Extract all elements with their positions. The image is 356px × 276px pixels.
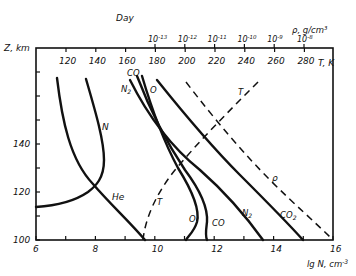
label-n2-bottom: N2: [242, 208, 252, 219]
t-tick-label: 120: [59, 56, 76, 66]
x-axis-title: lg N, cm-3: [307, 258, 348, 269]
label-n: N: [102, 122, 109, 132]
rho-tick-label: 10-10: [237, 34, 257, 44]
label-o-top: O: [150, 85, 157, 95]
x-tick-label: 6: [33, 244, 39, 254]
x-tick-label: 12: [211, 244, 223, 254]
x-tick-label: 8: [92, 244, 98, 254]
label-co2: CO2: [280, 210, 297, 221]
label-rho: ρ: [272, 173, 278, 183]
label-he: He: [112, 192, 125, 202]
t-tick-label: 240: [238, 56, 255, 66]
rho-tick-label: 10-13: [148, 34, 168, 44]
rho-tick-label: 10-12: [178, 34, 198, 44]
y-tick-label: 140: [13, 139, 30, 149]
rho-tick-label: 10-9: [267, 34, 283, 44]
x-tick-label: 10: [152, 244, 164, 254]
t-tick-label: 220: [208, 56, 225, 66]
atmosphere-profile-chart: Day Z, km T, K ρ, g/cm³ lg N, cm-3 12014…: [0, 0, 356, 276]
y-tick-label: 120: [13, 187, 30, 197]
t-tick-label: 140: [89, 56, 106, 66]
t-tick-label: 160: [119, 56, 136, 66]
rho-tick-label: 10-8: [297, 34, 313, 44]
t-tick-label: 260: [268, 56, 285, 66]
t-tick-label: 200: [178, 56, 195, 66]
label-t-top: T: [238, 87, 244, 97]
y-axis-title: Z, km: [3, 43, 30, 53]
label-n2-top: N2: [121, 84, 131, 95]
top-axis-ticks: 12014016018020022024026028010-1310-1210-…: [59, 34, 315, 66]
t-tick-label: 180: [148, 56, 165, 66]
x-tick-label: 16: [330, 244, 342, 254]
y-tick-label: 100: [13, 235, 30, 245]
label-co-top: CO: [127, 68, 140, 78]
top-axis-title: Day: [116, 13, 134, 23]
t-tick-label: 280: [297, 56, 314, 66]
label-o-bottom: O: [189, 214, 196, 224]
curve-he: [57, 78, 145, 240]
x-tick-label: 14: [271, 244, 283, 254]
label-t-bottom: T: [157, 197, 163, 207]
label-co-bottom: CO: [212, 218, 225, 228]
rho-tick-label: 10-11: [208, 34, 227, 44]
